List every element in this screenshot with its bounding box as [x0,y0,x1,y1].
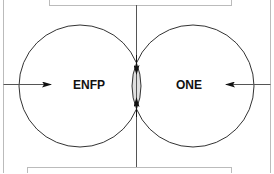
venn-diagram: ENFP ONE [0,0,274,173]
venn-diagram-svg: ENFP ONE [0,0,274,173]
left-set-label: ENFP [73,78,105,92]
top-box [50,0,232,6]
right-set-label: ONE [176,78,202,92]
bottom-box [28,168,232,174]
